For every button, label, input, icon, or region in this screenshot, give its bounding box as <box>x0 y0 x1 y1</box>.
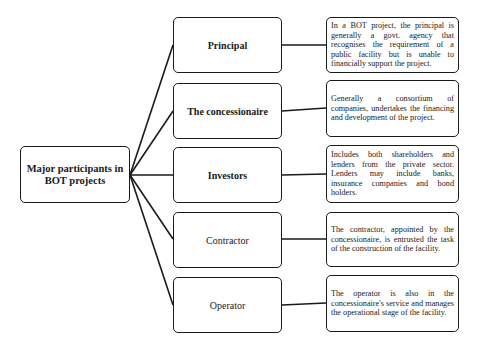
connector-hub-concessionaire <box>130 111 173 175</box>
description-contractor: The contractor, appointed by the concess… <box>326 212 459 267</box>
hub-node: Major participants in BOT projects <box>20 146 130 203</box>
node-label: The concessionaire <box>187 106 268 117</box>
connector-operator-desc <box>282 303 326 305</box>
description-operator: The operator is also in the concessionai… <box>326 275 459 332</box>
node-concessionaire: The concessionaire <box>173 83 282 139</box>
node-label: Principal <box>208 40 247 51</box>
description-text: Includes both shareholders and lenders f… <box>331 150 454 198</box>
description-principal: In a BOT project, the principal is gener… <box>326 17 459 73</box>
node-label: Operator <box>210 300 246 311</box>
node-label: Investors <box>208 170 247 181</box>
node-principal: Principal <box>173 17 282 73</box>
hub-label: Major participants in BOT projects <box>25 163 125 187</box>
description-text: The contractor, appointed by the concess… <box>331 225 454 254</box>
node-contractor: Contractor <box>173 212 282 268</box>
node-label: Contractor <box>206 235 249 246</box>
description-text: The operator is also in the concessionai… <box>331 289 454 318</box>
connector-concessionaire-desc <box>282 108 326 111</box>
node-operator: Operator <box>173 277 282 333</box>
connector-hub-contractor <box>130 175 173 239</box>
connector-investors-desc <box>282 174 326 175</box>
connector-hub-operator <box>130 175 173 305</box>
description-concessionaire: Generally a consortium of companies, und… <box>326 80 459 137</box>
connector-hub-principal <box>130 45 173 175</box>
description-text: Generally a consortium of companies, und… <box>331 94 454 123</box>
description-investors: Includes both shareholders and lenders f… <box>326 145 459 203</box>
node-investors: Investors <box>173 147 282 203</box>
description-text: In a BOT project, the principal is gener… <box>331 21 454 69</box>
